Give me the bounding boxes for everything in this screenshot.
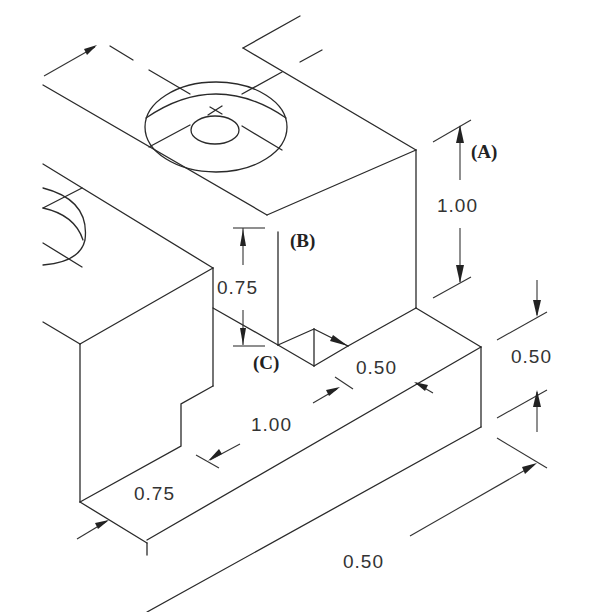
- dim-height-right-block: 1.00: [437, 195, 478, 217]
- dim-depth-left-front: 0.75: [134, 483, 175, 505]
- label-a: (A): [471, 141, 497, 163]
- label-b: (B): [290, 230, 315, 252]
- label-c: (C): [253, 352, 279, 374]
- isometric-drawing: (A) (B) (C) 1.00 0.75 0.50 0.50 1.00 0.7…: [0, 0, 599, 612]
- dim-length-front: 1.00: [251, 414, 292, 436]
- dim-slot-width: 0.50: [356, 357, 397, 379]
- front-ledge: [80, 308, 481, 612]
- drawing-lines: [0, 0, 599, 612]
- dim-overall-right-depth: 0.50: [343, 551, 384, 573]
- dim-step-height-left: 0.75: [217, 277, 258, 299]
- dim-right-ledge-height: 0.50: [511, 346, 552, 368]
